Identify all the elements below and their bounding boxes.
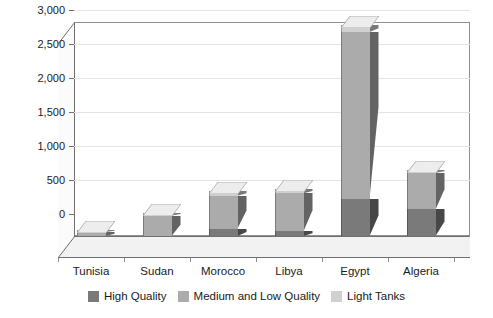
x-axis-tick-mark xyxy=(454,258,455,262)
bar-segment[interactable] xyxy=(341,32,370,199)
bar-segment-face xyxy=(341,199,370,236)
x-axis-tick-mark xyxy=(322,258,323,262)
legend-label: High Quality xyxy=(104,290,167,302)
bar-top-face xyxy=(341,14,370,25)
bar-segment-face xyxy=(143,216,172,236)
bar-segment-face xyxy=(209,196,238,229)
bar-top-face xyxy=(275,178,304,189)
y-axis-tick-mark xyxy=(69,44,74,45)
x-axis-tick-mark xyxy=(124,258,125,262)
x-axis-label-tunisia: Tunisia xyxy=(58,265,124,278)
y-axis-tick-label: 3,000 xyxy=(5,5,65,16)
y-axis-tick-mark xyxy=(69,78,74,79)
legend-swatch-icon xyxy=(331,291,342,302)
legend-label: Light Tanks xyxy=(347,290,405,302)
x-axis-tick-mark xyxy=(58,258,59,262)
chart-container: 05001,0001,5002,0002,5003,000 TunisiaSud… xyxy=(0,0,493,318)
y-axis-tick-label: 0 xyxy=(5,209,65,220)
back-wall-right-edge xyxy=(469,22,470,237)
bar-segment-face xyxy=(209,229,238,236)
x-axis-label-egypt: Egypt xyxy=(322,265,388,278)
chart-legend: High QualityMedium and Low QualityLight … xyxy=(0,290,493,302)
bar-segment-face xyxy=(407,209,436,236)
y-axis-tick-mark xyxy=(69,10,74,11)
y-axis-tick-label: 2,500 xyxy=(5,39,65,50)
legend-item[interactable]: Light Tanks xyxy=(331,290,405,302)
legend-item[interactable]: High Quality xyxy=(88,290,167,302)
x-axis-label-morocco: Morocco xyxy=(190,265,256,278)
bar-group[interactable] xyxy=(209,22,238,258)
y-axis-tick-label: 500 xyxy=(5,175,65,186)
bar-segment[interactable] xyxy=(275,193,304,231)
y-axis-tick-label: 1,000 xyxy=(5,141,65,152)
bar-group[interactable] xyxy=(77,22,106,258)
bar-segment[interactable] xyxy=(143,216,172,236)
bar-top-face xyxy=(143,202,172,213)
x-axis-tick-mark xyxy=(190,258,191,262)
bar-group[interactable] xyxy=(275,22,304,258)
x-axis-tick-mark xyxy=(256,258,257,262)
bar-segment[interactable] xyxy=(209,196,238,229)
x-axis-label-algeria: Algeria xyxy=(388,265,454,278)
bar-segment-face xyxy=(275,193,304,231)
bar-segment[interactable] xyxy=(275,231,304,236)
bar-group[interactable] xyxy=(407,22,436,258)
legend-swatch-icon xyxy=(88,291,99,302)
bar-segment-face xyxy=(407,173,436,210)
bar-segment[interactable] xyxy=(407,173,436,210)
legend-swatch-icon xyxy=(178,291,189,302)
y-axis-tick-label: 2,000 xyxy=(5,73,65,84)
plot-area xyxy=(58,22,470,258)
bar-top-face xyxy=(209,180,238,191)
bar-segment[interactable] xyxy=(209,229,238,236)
x-axis-label-sudan: Sudan xyxy=(124,265,190,278)
bar-top-face xyxy=(407,159,436,170)
y-axis-tick-mark xyxy=(69,146,74,147)
y-axis-line xyxy=(74,22,75,237)
x-axis-tick-mark xyxy=(388,258,389,262)
y-axis-tick-mark xyxy=(69,180,74,181)
bar-group[interactable] xyxy=(143,22,172,258)
bar-segment-face xyxy=(341,32,370,199)
bar-top-face xyxy=(77,219,106,230)
legend-label: Medium and Low Quality xyxy=(194,290,321,302)
y-axis-tick-mark xyxy=(69,112,74,113)
y-axis-tick-label: 1,500 xyxy=(5,107,65,118)
bar-group[interactable] xyxy=(341,22,370,258)
bar-segment[interactable] xyxy=(341,199,370,236)
y-axis-tick-mark xyxy=(69,214,74,215)
gridline xyxy=(74,10,470,11)
bar-segment[interactable] xyxy=(407,209,436,236)
floor-left-diagonal xyxy=(58,236,75,258)
x-axis-label-libya: Libya xyxy=(256,265,322,278)
bar-segment-face xyxy=(275,231,304,236)
legend-item[interactable]: Medium and Low Quality xyxy=(178,290,321,302)
